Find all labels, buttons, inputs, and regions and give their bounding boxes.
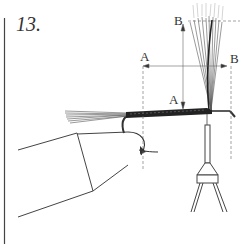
label-b-right: B: [230, 52, 239, 65]
step-number: 13.: [16, 14, 41, 34]
hook: [123, 114, 158, 155]
label-a-bottom: A: [169, 93, 178, 106]
bobbin-holder: [191, 114, 227, 212]
thread-wrapped-body: [126, 108, 235, 118]
label-a-left: A: [140, 50, 149, 63]
dimension-line-a: [143, 64, 231, 170]
diagram-drawing: [0, 0, 249, 244]
tail-fibers: [65, 111, 128, 123]
fly-tying-diagram: 13. B A B A: [0, 0, 249, 244]
label-b-top: B: [174, 14, 183, 27]
upright-wing-fibers: [190, 3, 223, 110]
vise-jaws: [18, 132, 128, 217]
